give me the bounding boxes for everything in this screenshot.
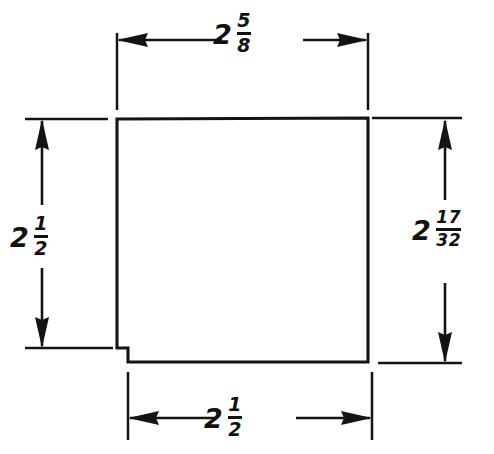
left-dimension-whole: 2	[10, 222, 29, 253]
left-dimension-denominator: 2	[34, 239, 48, 259]
bottom-dimension-numerator: 1	[228, 395, 242, 415]
left-dimension-numerator: 1	[34, 214, 48, 234]
top-dimension-whole: 2	[213, 19, 232, 50]
bottom-dimension-arrow-left	[128, 411, 159, 425]
left-dimension-fraction: 1 2	[34, 214, 48, 259]
left-dimension-label: 2 1 2	[10, 215, 48, 260]
top-dimension-label: 2 5 8	[213, 12, 251, 57]
right-dimension-fraction: 17 32	[436, 209, 461, 250]
top-dimension-arrow-right	[337, 33, 368, 47]
bottom-dimension-arrow-right	[341, 411, 372, 425]
right-dimension-arrow-bottom	[438, 332, 452, 363]
right-dimension-label: 2 17 32	[412, 210, 461, 251]
right-dimension-arrow-top	[438, 119, 452, 150]
top-dimension-numerator: 5	[237, 11, 251, 31]
bottom-dimension-whole: 2	[204, 403, 223, 434]
bottom-dimension-fraction: 1 2	[228, 395, 242, 440]
bottom-dimension-denominator: 2	[228, 420, 242, 440]
top-dimension-denominator: 8	[237, 36, 251, 56]
left-dimension-arrow-bottom	[35, 317, 49, 348]
top-dimension-arrow-left	[117, 33, 148, 47]
right-dimension-whole: 2	[412, 215, 431, 246]
part-outline	[117, 118, 368, 362]
top-dimension-fraction: 5 8	[237, 11, 251, 56]
right-dimension-numerator: 17	[436, 209, 461, 227]
right-dimension-denominator: 32	[436, 232, 461, 250]
technical-drawing-canvas: 2 5 8 2 1 2 2 17 32 2 1 2	[0, 0, 494, 454]
left-dimension-arrow-top	[35, 119, 49, 150]
bottom-dimension-label: 2 1 2	[204, 396, 242, 441]
